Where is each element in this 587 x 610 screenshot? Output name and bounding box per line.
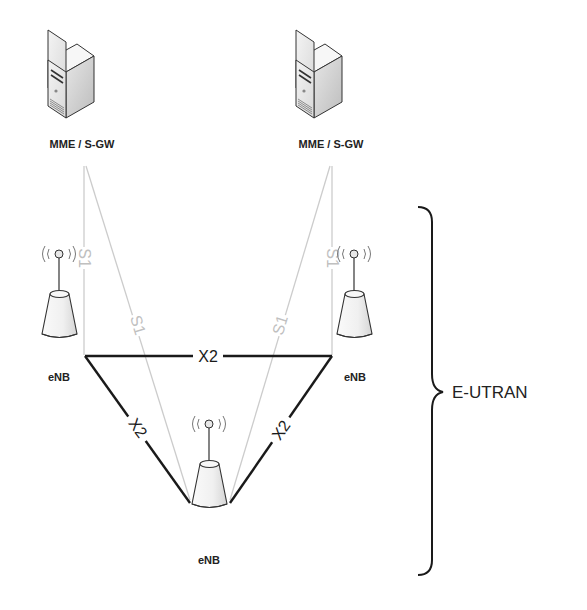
network-diagram: S1 S1 S1 S1 X2 X2 X2 [0, 0, 587, 610]
enb-left-node: eNB [42, 246, 78, 383]
x2-label-top: X2 [198, 348, 218, 365]
server-icon [48, 30, 94, 118]
base-station-icon [337, 246, 373, 338]
s1-label-left-vertical: S1 [76, 248, 93, 268]
server-icon [296, 30, 342, 118]
enb-bottom-label: eNB [198, 554, 220, 566]
server-left-node: MME / S-GW [48, 30, 115, 150]
right-curly-brace-icon [418, 207, 443, 575]
e-utran-group: E-UTRAN [418, 207, 528, 575]
enb-right-label: eNB [344, 371, 366, 383]
enb-left-label: eNB [48, 371, 70, 383]
server-right-label: MME / S-GW [299, 138, 364, 150]
enb-right-node: eNB [337, 246, 373, 383]
base-station-icon [42, 246, 78, 338]
enb-bottom-node: eNB [192, 416, 228, 566]
server-left-label: MME / S-GW [50, 138, 115, 150]
s1-links [84, 166, 332, 500]
base-station-icon [192, 416, 228, 508]
server-right-node: MME / S-GW [296, 30, 364, 150]
e-utran-label: E-UTRAN [452, 383, 528, 402]
